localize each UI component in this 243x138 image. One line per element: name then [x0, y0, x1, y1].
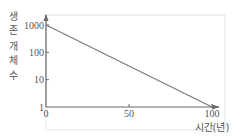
- y-axis-label-char: 존: [9, 25, 18, 36]
- y-axis-label-char: 개: [9, 41, 18, 52]
- labels: 1101001000050100시간(년)생존개체수: [9, 11, 230, 133]
- y-tick-label: 1000: [24, 20, 44, 31]
- x-tick-label: 50: [124, 108, 134, 119]
- series-line: [46, 25, 212, 107]
- axes: [44, 14, 221, 110]
- x-tick-label: 0: [44, 108, 49, 119]
- y-axis-label-char: 체: [9, 55, 18, 66]
- x-tick-label: 100: [205, 108, 220, 119]
- y-tick-label: 10: [34, 74, 44, 85]
- x-axis-label: 시간(년): [195, 122, 230, 133]
- y-axis-label-char: 생: [9, 11, 18, 22]
- y-axis-label-char: 수: [9, 70, 18, 81]
- plot-frame: [46, 15, 225, 130]
- y-tick-label: 100: [29, 47, 44, 58]
- chart: 1101001000050100시간(년)생존개체수: [0, 0, 243, 138]
- marks: [46, 25, 212, 107]
